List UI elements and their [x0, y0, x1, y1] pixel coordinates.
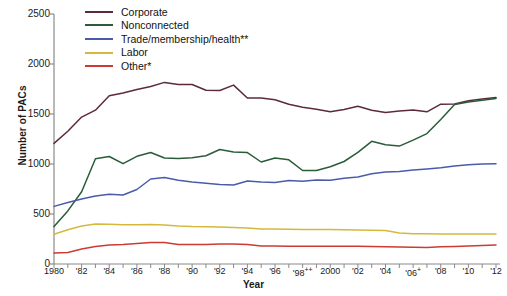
series-line-3 — [54, 224, 496, 234]
pac-line-chart: Number of PACs Year 05001000150020002500… — [0, 0, 507, 296]
series-line-0 — [54, 82, 496, 143]
series-line-2 — [54, 164, 496, 207]
series-line-1 — [54, 99, 496, 227]
plot-area — [0, 0, 507, 296]
series-line-4 — [54, 243, 496, 254]
